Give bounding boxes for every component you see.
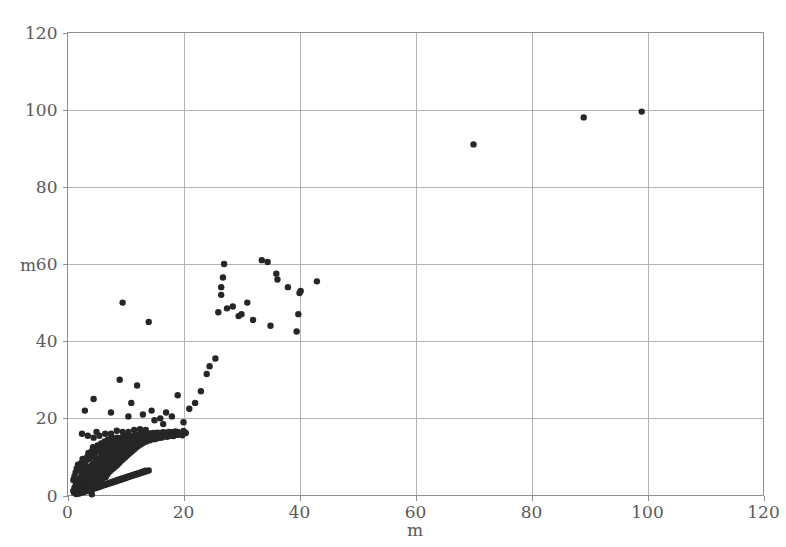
data-point [250,317,256,323]
data-point [157,415,163,421]
data-point [119,429,125,435]
data-point [639,108,645,114]
data-point [85,433,91,439]
data-point [148,407,154,413]
data-point [163,409,169,415]
y-tick-label: 60 [36,254,58,274]
data-point [224,305,230,311]
data-point [134,382,140,388]
x-tick-label: 100 [631,502,663,522]
data-point [102,431,108,437]
data-point [295,311,301,317]
data-point [125,429,131,435]
x-axis-title: m [407,520,423,540]
data-point [119,299,125,305]
data-point [151,417,157,423]
data-point [267,323,273,329]
y-tick-label: 20 [36,408,58,428]
y-tick-label: 100 [25,100,57,120]
data-point [140,411,146,417]
data-point [137,426,143,432]
data-point [198,388,204,394]
data-point [230,303,236,309]
x-tick-label: 60 [405,502,427,522]
x-tick-label: 120 [747,502,779,522]
data-point [89,491,95,497]
data-point [297,288,303,294]
data-point [108,431,114,437]
y-tick-label: 80 [36,177,58,197]
data-point [218,284,224,290]
data-point [146,319,152,325]
data-point [125,413,131,419]
data-point [114,427,120,433]
data-point [581,114,587,120]
x-tick-label: 20 [173,502,195,522]
data-point [169,413,175,419]
data-point [206,363,212,369]
x-tick-label: 80 [521,502,543,522]
x-tick-label: 40 [289,502,311,522]
data-point [186,405,192,411]
data-point [314,278,320,284]
data-point [244,299,250,305]
data-point [117,377,123,383]
y-axis-title: m [20,255,36,275]
data-point [204,371,210,377]
data-point [79,431,85,437]
scatter-plot-figure: 020406080100120020406080100120 m m [0,0,786,547]
data-point [212,355,218,361]
data-point [82,407,88,413]
data-point [183,430,189,436]
data-point [142,468,148,474]
data-point [90,434,96,440]
data-point [192,400,198,406]
data-point [90,396,96,402]
data-point [128,400,134,406]
data-point [215,309,221,315]
data-point [114,434,120,440]
data-point [273,270,279,276]
data-point [175,392,181,398]
data-point [285,284,291,290]
data-point [470,141,476,147]
data-point [221,261,227,267]
y-tick-label: 0 [47,486,58,506]
data-point [108,409,114,415]
x-tick-label: 0 [62,502,73,522]
data-point [293,328,299,334]
data-point [264,259,270,265]
data-point [160,421,166,427]
y-tick-label: 120 [25,23,57,43]
data-point [238,311,244,317]
data-point [143,427,149,433]
data-point [274,276,280,282]
data-point [218,292,224,298]
data-point [131,427,137,433]
data-point [93,429,99,435]
data-point [220,274,226,280]
plot-canvas: 020406080100120020406080100120 m m [0,0,786,547]
y-tick-label: 40 [36,331,58,351]
data-point [180,419,186,425]
data-point [259,257,265,263]
